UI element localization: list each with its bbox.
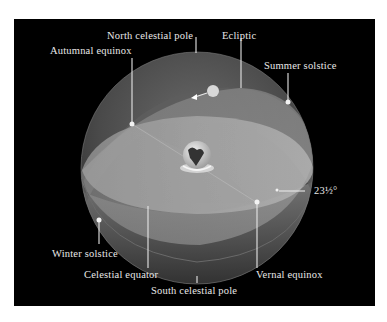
label-summer-solstice: Summer solstice xyxy=(264,60,337,72)
autumnal-equinox-dot xyxy=(130,122,135,127)
tilt-angle-dot xyxy=(276,189,279,192)
label-ecliptic: Ecliptic xyxy=(222,30,256,42)
label-vernal-equinox: Vernal equinox xyxy=(256,269,323,281)
label-celestial-equator: Celestial equator xyxy=(84,269,158,281)
label-north-celestial-pole: North celestial pole xyxy=(107,30,193,42)
label-winter-solstice: Winter solstice xyxy=(52,248,118,260)
summer-solstice-dot xyxy=(286,100,291,105)
label-tilt-angle: 23½° xyxy=(314,185,337,197)
label-south-celestial-pole: South celestial pole xyxy=(151,285,237,297)
label-autumnal-equinox: Autumnal equinox xyxy=(50,45,132,57)
sun-icon xyxy=(207,85,219,97)
winter-solstice-dot xyxy=(97,218,102,223)
vernal-equinox-dot xyxy=(255,200,260,205)
